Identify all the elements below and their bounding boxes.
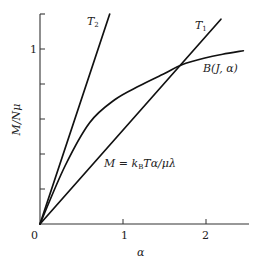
t2-label: T2 (87, 16, 99, 29)
origin-label: 0 (31, 230, 38, 241)
series-t2-line (40, 14, 110, 224)
series-lines (40, 14, 243, 224)
y-tick-label-1: 1 (30, 44, 37, 55)
series-t1-line (40, 19, 221, 224)
x-tick-label-1: 1 (121, 230, 128, 241)
x-axis-label: α (137, 247, 144, 258)
eq-prefix: M = k (104, 157, 138, 170)
y-ticks (40, 49, 45, 189)
series-b-j--line (40, 51, 243, 224)
plot-area (0, 0, 263, 266)
magnetization-chart: 1 0 1 2 α M/Nμ T2 T1 B(J, α) M = kBTα/μλ (0, 0, 263, 266)
t1-label: T1 (195, 20, 207, 33)
t1-sub: 1 (202, 25, 206, 33)
x-tick-label-2: 2 (202, 230, 209, 241)
y-axis-label: M/Nμ (11, 100, 22, 140)
equation-label: M = kBTα/μλ (104, 158, 176, 171)
b-curve-label: B(J, α) (203, 63, 238, 74)
t2-sub: 2 (94, 21, 98, 29)
x-ticks (123, 219, 206, 224)
eq-suffix: Tα/μλ (143, 157, 176, 170)
